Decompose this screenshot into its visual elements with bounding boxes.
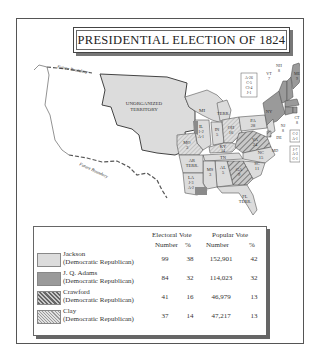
ev-percent-header: %	[185, 241, 191, 249]
adams-ev-pct: 32	[182, 274, 198, 282]
de-split-crawford: C-2	[292, 132, 298, 136]
vt-votes: 7	[268, 76, 270, 81]
crawford-ev-pct: 16	[182, 293, 198, 301]
legend-row-adams: J. Q. Adams(Democratic Republican) 84 32…	[37, 271, 263, 288]
ny-split-crawford: C-5	[246, 81, 252, 85]
jackson-ev: 99	[155, 255, 175, 263]
md-split-adams: A-3	[292, 152, 298, 156]
me-votes: 9	[296, 76, 298, 81]
ar-terr-label: TERR.	[186, 163, 199, 168]
ny-label: NY	[266, 109, 273, 114]
map-title: PRESIDENTIAL ELECTION OF 1824	[76, 30, 287, 50]
state-ri	[293, 107, 297, 113]
ny-split-clay: Cl-4	[246, 86, 253, 90]
us-map-1824: Future Boundary Future Boundary UNORGANI…	[17, 55, 300, 225]
crawford-label: Crawford(Democratic Republican)	[63, 289, 134, 304]
clay-pv: 47,217	[203, 312, 239, 320]
la-votes-2: A-2	[188, 185, 194, 190]
legend-row-clay: Clay(Democratic Republican) 37 14 47,217…	[37, 309, 263, 326]
nh-votes: 8	[278, 68, 280, 73]
adams-pv-pct: 32	[246, 274, 262, 282]
popular-vote-header: Popular Vote	[212, 231, 248, 239]
title-box: PRESIDENTIAL ELECTION OF 1824	[73, 27, 290, 53]
future-boundary-label-north: Future Boundary	[56, 64, 88, 74]
jackson-swatch	[37, 253, 61, 267]
sc-votes: 11	[255, 166, 259, 171]
pv-percent-header: %	[249, 241, 255, 249]
crawford-swatch	[37, 291, 61, 305]
west-coastline	[34, 65, 69, 155]
il-votes-2: A-1	[198, 134, 204, 139]
crawford-pv-pct: 13	[246, 293, 262, 301]
oh-votes: 16	[229, 130, 234, 135]
ct-votes: 8	[296, 120, 298, 125]
fl-terr-label: TERR.	[239, 199, 252, 204]
jackson-label: Jackson(Democratic Republican)	[63, 251, 134, 266]
unorganized-territory-label-1: UNORGANIZED	[126, 101, 163, 106]
nc-votes: 15	[259, 155, 264, 160]
future-boundary-south	[69, 155, 167, 198]
adams-pv: 114,023	[203, 274, 239, 282]
ky-votes: 14	[221, 148, 225, 153]
nj-votes: 8	[282, 128, 284, 133]
state-ct	[285, 107, 293, 115]
md-label: MD	[272, 148, 279, 153]
legend-table: Electoral Vote Popular Vote Number % Num…	[33, 226, 267, 336]
adams-ev: 84	[155, 274, 175, 282]
va-votes: 24	[253, 142, 258, 147]
de-label: DE	[276, 135, 282, 140]
crawford-pv: 46,979	[203, 293, 239, 301]
future-boundary-label-south: Future Boundary	[78, 161, 109, 179]
state-la-adams-part	[195, 187, 207, 195]
de-split-adams: A-1	[292, 137, 298, 141]
clay-ev: 37	[155, 312, 175, 320]
clay-pv-pct: 13	[246, 312, 262, 320]
adams-label: J. Q. Adams(Democratic Republican)	[63, 270, 134, 285]
adams-swatch	[37, 272, 61, 286]
legend-row-jackson: Jackson(Democratic Republican) 99 38 152…	[37, 252, 263, 269]
jackson-pv-pct: 42	[246, 255, 262, 263]
pv-number-header: Number	[206, 241, 229, 249]
clay-ev-pct: 14	[182, 312, 198, 320]
jackson-pv: 152,901	[203, 255, 239, 263]
state-de	[267, 131, 271, 137]
ny-split-adams: A-26	[245, 76, 253, 80]
jackson-ev-pct: 38	[182, 255, 198, 263]
ev-number-header: Number	[155, 241, 178, 249]
md-split-crawford: C-1	[292, 157, 298, 161]
crawford-ev: 41	[155, 293, 175, 301]
mi-label: MI	[199, 108, 205, 113]
legend-row-crawford: Crawford(Democratic Republican) 41 16 46…	[37, 290, 263, 307]
electoral-vote-header: Electoral Vote	[152, 231, 192, 239]
ny-split-jackson: J-1	[247, 91, 252, 95]
clay-label: Clay(Democratic Republican)	[63, 308, 134, 323]
unorganized-territory-label-2: TERRITORY	[130, 107, 158, 112]
pa-votes: 28	[251, 123, 256, 128]
mi-terr-label: TERR.	[217, 111, 230, 116]
clay-swatch	[37, 310, 61, 324]
tn-label: TN	[220, 155, 227, 160]
